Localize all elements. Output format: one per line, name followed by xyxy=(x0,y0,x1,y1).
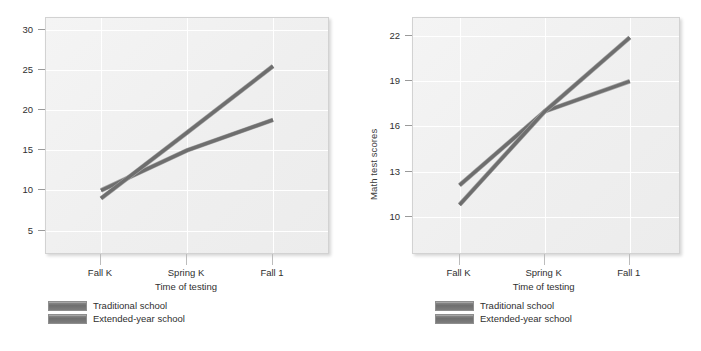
y-axis-label: 10 xyxy=(7,184,33,195)
y-axis-tick xyxy=(405,35,412,36)
y-axis-tick xyxy=(405,216,412,217)
y-axis-label: 13 xyxy=(374,165,400,176)
x-axis-label: Fall K xyxy=(446,267,470,278)
y-axis-tick xyxy=(38,69,45,70)
legend-item-extended-year: Extended-year school xyxy=(48,313,185,324)
x-axis-label: Spring K xyxy=(168,267,204,278)
y-axis-label: 30 xyxy=(7,24,33,35)
y-axis-label: 19 xyxy=(374,75,400,86)
y-axis-tick xyxy=(38,109,45,110)
legend-left: Traditional school Extended-year school xyxy=(48,300,185,324)
y-axis-tick xyxy=(38,230,45,231)
legend-swatch-icon xyxy=(435,314,474,324)
data-lines-right xyxy=(413,18,679,253)
legend-label-traditional: Traditional school xyxy=(93,300,167,311)
data-line-traditional xyxy=(460,81,630,185)
legend-swatch-icon xyxy=(435,301,474,311)
x-axis-label: Fall 1 xyxy=(617,267,640,278)
legend-item-traditional: Traditional school xyxy=(435,300,572,311)
y-axis-tick xyxy=(38,29,45,30)
x-axis-tick xyxy=(459,254,460,265)
x-axis-tick xyxy=(100,254,101,265)
chart-panel-left: 51015202530 Fall KSpring KFall 1 Time of… xyxy=(0,0,350,351)
y-axis-label: 20 xyxy=(7,104,33,115)
y-axis-tick xyxy=(38,149,45,150)
y-axis-label: 15 xyxy=(7,144,33,155)
x-axis-label: Fall K xyxy=(88,267,112,278)
chart-panel-right: Math test scores 1013161922 Fall KSpring… xyxy=(350,0,701,351)
x-axis-tick xyxy=(186,254,187,265)
legend-label-extended-year: Extended-year school xyxy=(480,313,572,324)
legend-swatch-icon xyxy=(48,301,87,311)
y-axis-label: 10 xyxy=(374,210,400,221)
x-axis-tick xyxy=(272,254,273,265)
y-axis-label: 5 xyxy=(7,224,33,235)
y-axis-tick xyxy=(405,171,412,172)
x-axis-tick xyxy=(544,254,545,265)
y-axis-label: 16 xyxy=(374,120,400,131)
legend-item-extended-year: Extended-year school xyxy=(435,313,572,324)
data-line-highlight xyxy=(460,81,630,185)
y-axis-label: 22 xyxy=(374,30,400,41)
x-axis-title-left: Time of testing xyxy=(155,281,217,292)
legend-right: Traditional school Extended-year school xyxy=(435,300,572,324)
data-lines-left xyxy=(46,18,328,253)
y-axis-label: 25 xyxy=(7,64,33,75)
x-axis-label: Spring K xyxy=(525,267,561,278)
legend-label-extended-year: Extended-year school xyxy=(93,313,185,324)
x-axis-label: Fall 1 xyxy=(260,267,283,278)
plot-area-right xyxy=(412,17,680,254)
data-line-extended-year xyxy=(101,66,273,198)
x-axis-tick xyxy=(629,254,630,265)
two-panel-line-chart-figure: 51015202530 Fall KSpring KFall 1 Time of… xyxy=(0,0,701,351)
y-axis-tick xyxy=(405,80,412,81)
y-axis-tick xyxy=(405,125,412,126)
legend-swatch-icon xyxy=(48,314,87,324)
legend-item-traditional: Traditional school xyxy=(48,300,185,311)
x-axis-title-right: Time of testing xyxy=(513,281,575,292)
y-axis-tick xyxy=(38,189,45,190)
data-line-highlight xyxy=(460,38,630,205)
plot-area-left xyxy=(45,17,329,254)
legend-label-traditional: Traditional school xyxy=(480,300,554,311)
